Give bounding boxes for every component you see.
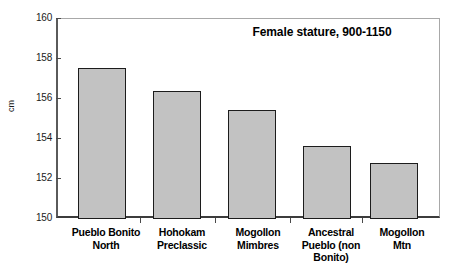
x-tick-mark-3 bbox=[290, 218, 291, 223]
x-tick-mark-4 bbox=[362, 218, 363, 223]
x-label-mogollon-mtn: Mogollon Mtn bbox=[348, 226, 453, 251]
x-label-line: Mtn bbox=[348, 239, 453, 252]
x-tick-mark-1 bbox=[140, 218, 141, 223]
bar-ancestral-pueblo[interactable] bbox=[303, 146, 351, 219]
bar-chart: 160 158 156 154 152 150 cm Female statur… bbox=[0, 0, 453, 280]
x-label-line: Bonito) bbox=[277, 251, 385, 264]
x-label-line: Mogollon bbox=[348, 226, 453, 239]
bar-mogollon-mimbres[interactable] bbox=[228, 110, 276, 219]
x-tick-mark-2 bbox=[215, 218, 216, 223]
bar-pueblo-bonito-north[interactable] bbox=[78, 68, 126, 219]
bar-hohokam-preclassic[interactable] bbox=[153, 91, 201, 219]
bar-mogollon-mtn[interactable] bbox=[370, 163, 418, 219]
x-axis-labels: Pueblo Bonito North Hohokam Preclassic M… bbox=[56, 226, 440, 280]
